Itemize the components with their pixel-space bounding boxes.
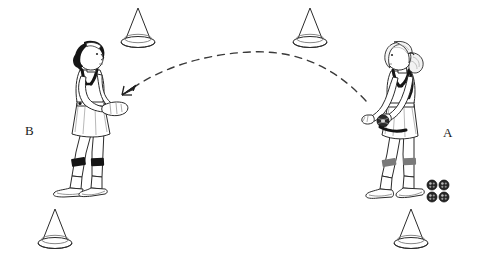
diagram-canvas bbox=[0, 0, 479, 271]
player-label-a: A bbox=[443, 126, 452, 139]
player-label-b: B bbox=[25, 124, 34, 137]
ball-in-hands bbox=[377, 115, 389, 127]
drill-diagram: B A bbox=[0, 0, 479, 271]
